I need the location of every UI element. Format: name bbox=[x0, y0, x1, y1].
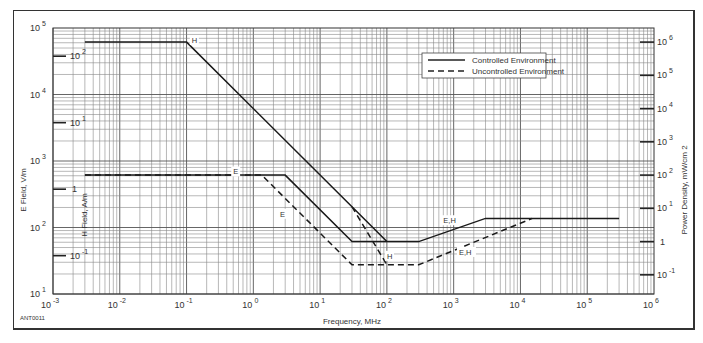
series-line-controlled-environment-e bbox=[85, 175, 387, 242]
curve-annotation: H bbox=[192, 36, 197, 45]
y-tick-label-power-density: 105 bbox=[657, 67, 673, 80]
legend-label-controlled: Controlled Environment bbox=[472, 56, 556, 65]
legend: Controlled Environment Uncontrolled Envi… bbox=[422, 53, 565, 78]
y-tick-label-power-density: 102 bbox=[657, 167, 673, 180]
x-tick-label: 103 bbox=[443, 297, 459, 310]
y-tick-label-power-density: 10-1 bbox=[657, 267, 675, 280]
x-tick-label: 10-3 bbox=[41, 297, 59, 310]
y-tick-label-power-density: 1 bbox=[660, 237, 665, 247]
x-tick-label: 106 bbox=[643, 297, 659, 310]
curve-annotation: E bbox=[233, 167, 238, 176]
y-tick-label-e-field: 103 bbox=[30, 153, 46, 166]
y-tick-label-power-density: 106 bbox=[657, 34, 673, 47]
curve-annotation: E,H bbox=[443, 216, 456, 225]
y-tick-label-power-density: 101 bbox=[657, 200, 673, 213]
x-axis-label: Frequency, MHz bbox=[323, 317, 381, 326]
y-tick-label-power-density: 103 bbox=[657, 134, 673, 147]
x-tick-label: 10-2 bbox=[108, 297, 126, 310]
axes: 10-310-210-11001011021031041051061051041… bbox=[30, 20, 675, 310]
curve-annotation: H bbox=[387, 252, 392, 261]
x-tick-label: 10-1 bbox=[174, 297, 192, 310]
y-tick-label-h-field: 1 bbox=[72, 184, 77, 194]
y-tick-label-h-field: 10-1 bbox=[70, 248, 88, 261]
x-tick-label: 101 bbox=[309, 297, 325, 310]
x-tick-label: 100 bbox=[242, 297, 258, 310]
curve-annotation: E,H bbox=[459, 248, 472, 257]
y-tick-label-power-density: 104 bbox=[657, 101, 673, 114]
y-tick-label-e-field: 102 bbox=[30, 220, 46, 233]
line-chart: HEEHE,HE,H 10-310-210-110010110210310410… bbox=[0, 0, 703, 343]
x-tick-label: 105 bbox=[576, 297, 592, 310]
y-tick-label-e-field: 105 bbox=[30, 20, 46, 33]
y-axis-label-h-field: H Field, A/m bbox=[80, 193, 89, 237]
corner-label: ANT0011 bbox=[20, 315, 46, 321]
curve-annotation: E bbox=[280, 210, 285, 219]
x-tick-label: 102 bbox=[376, 297, 392, 310]
y-tick-label-e-field: 104 bbox=[30, 87, 46, 100]
y-axis-label-power-density: Power Density, mW/cm 2 bbox=[680, 145, 689, 235]
x-tick-label: 104 bbox=[509, 297, 525, 310]
legend-label-uncontrolled: Uncontrolled Environment bbox=[472, 67, 565, 76]
y-tick-label-h-field: 102 bbox=[70, 48, 86, 61]
y-tick-label-h-field: 101 bbox=[70, 115, 86, 128]
y-tick-label-e-field: 101 bbox=[30, 286, 46, 299]
y-axis-label-e-field: E Field, V/m bbox=[19, 168, 28, 212]
